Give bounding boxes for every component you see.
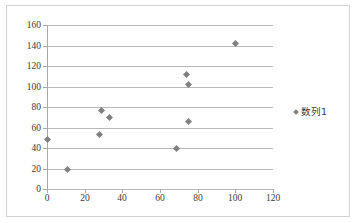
chart-legend: 数列1 [294, 106, 327, 117]
x-axis-tick-label: 60 [145, 193, 175, 204]
y-axis-tick-label: 60 [32, 123, 42, 133]
data-point-marker [185, 81, 192, 88]
data-point-marker [232, 40, 239, 47]
chart-screenshot: 020406080100120140160 020406080100120 数列… [0, 0, 357, 223]
y-axis-labels: 020406080100120140160 [0, 0, 41, 223]
data-point-marker [64, 166, 71, 173]
data-point-marker [173, 144, 180, 151]
x-axis-tick-label: 20 [70, 193, 100, 204]
y-axis-tick-label: 120 [27, 61, 41, 71]
data-point-marker [98, 107, 105, 114]
x-axis-tick-label: 120 [258, 193, 288, 204]
x-axis-tick-label: 40 [107, 193, 137, 204]
y-axis-tick-label: 160 [27, 20, 41, 30]
legend-diamond-marker-icon [293, 109, 299, 115]
y-axis-tick-label: 140 [27, 41, 41, 51]
legend-series-label: 数列1 [301, 106, 327, 117]
x-axis-tick-label: 80 [183, 193, 213, 204]
x-axis-tick-label: 100 [220, 193, 250, 204]
plot-area [47, 25, 273, 189]
y-axis-tick-label: 100 [27, 82, 41, 92]
data-point-marker [96, 131, 103, 138]
y-axis-tick-label: 80 [32, 102, 42, 112]
data-point-marker [185, 118, 192, 125]
y-axis-tick-label: 20 [32, 164, 42, 174]
y-axis-tick-label: 40 [32, 143, 42, 153]
x-axis-tick-label: 0 [32, 193, 62, 204]
data-point-marker [106, 114, 113, 121]
data-point-marker [183, 71, 190, 78]
